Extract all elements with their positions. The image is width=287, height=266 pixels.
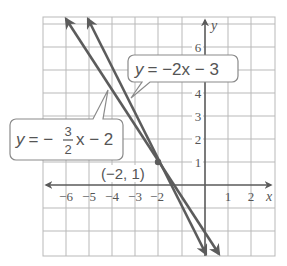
intersection-label: (−2, 1) (101, 165, 145, 182)
svg-text:4: 4 (195, 86, 202, 101)
svg-text:6: 6 (195, 40, 202, 55)
x-tick-labels: −6 −5 −4 −3 −2 1 2 (59, 189, 254, 204)
eq2-numerator: 3 (64, 124, 71, 139)
coordinate-plane: −6 −5 −4 −3 −2 1 2 x 1 2 3 4 6 y (−2, 1)… (0, 0, 287, 266)
svg-text:1: 1 (195, 155, 202, 170)
eq1-text: y= −2x − 3 (134, 60, 219, 79)
eq2-rest: x − 2 (76, 130, 113, 149)
callout-eq1: y= −2x − 3 (128, 55, 238, 98)
svg-text:1: 1 (225, 189, 232, 204)
y-axis-label: y (209, 18, 218, 33)
x-axis-label: x (265, 189, 273, 204)
intersection-point (155, 159, 161, 165)
eq2-text: y= − (15, 130, 53, 149)
svg-text:−2: −2 (150, 189, 164, 204)
svg-text:−4: −4 (105, 189, 119, 204)
svg-text:3: 3 (195, 109, 202, 124)
svg-text:−3: −3 (128, 189, 142, 204)
svg-text:2: 2 (248, 189, 255, 204)
eq2-denominator: 2 (64, 142, 71, 157)
svg-text:2: 2 (195, 132, 202, 147)
svg-text:−5: −5 (82, 189, 96, 204)
svg-text:−6: −6 (59, 189, 73, 204)
